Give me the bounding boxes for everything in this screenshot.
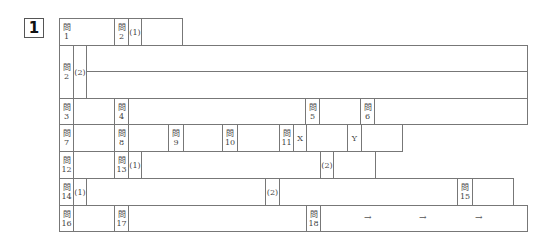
q15-label: 問15 [457,178,473,206]
q-number: 2 [119,32,124,41]
q-number: 16 [61,219,71,228]
q17-answer[interactable] [128,205,307,232]
q16-label: 問16 [59,205,74,232]
q11-x-label: X [293,124,307,152]
q14-1-answer[interactable] [86,178,266,206]
q-prefix: 問 [226,129,234,138]
q-number: 18 [308,219,318,228]
q-number: 8 [119,138,124,147]
q9-answer[interactable] [183,124,223,152]
q7-label: 問7 [59,124,74,152]
q-number: 12 [61,165,71,174]
q11-y-answer[interactable] [361,124,403,152]
q-number: 15 [460,192,470,201]
q-prefix: 問 [172,129,180,138]
q11-y-label: Y [347,124,362,152]
q-number: 6 [365,112,370,121]
q4-label: 問4 [114,98,129,125]
q2-2-answer-line2[interactable] [86,71,528,99]
q13-label: 問13 [114,151,129,179]
q1-answer[interactable] [73,18,115,46]
q8-label: 問8 [114,124,129,152]
q-number: 5 [310,112,315,121]
q-prefix: 問 [63,156,71,165]
q-number: 7 [64,138,69,147]
q-prefix: 問 [118,210,126,219]
q4-answer[interactable] [128,98,306,125]
q-number: 14 [61,192,71,201]
q-prefix: 問 [63,23,71,32]
arrow-icon: → [419,212,427,222]
q16-answer[interactable] [73,205,115,232]
q-prefix: 問 [63,129,71,138]
q12-answer[interactable] [73,151,115,179]
q11-x-answer[interactable] [306,124,348,152]
q-prefix: 問 [118,129,126,138]
q12-label: 問12 [59,151,74,179]
q10-label: 問10 [222,124,238,152]
q14-sub2-label: (2) [265,178,280,206]
q-number: 1 [64,32,69,41]
q2-sub1-label: (1) [128,18,142,46]
q-number: 13 [116,165,126,174]
q-prefix: 問 [283,129,291,138]
q14-2-answer[interactable] [279,178,458,206]
q-prefix: 問 [118,103,126,112]
q10-answer[interactable] [237,124,280,152]
q-prefix: 問 [63,103,71,112]
q3-label: 問3 [59,98,74,125]
q8-answer[interactable] [128,124,169,152]
q-number: 4 [119,112,124,121]
q9-label: 問9 [168,124,184,152]
q15-answer[interactable] [472,178,514,206]
q-prefix: 問 [310,210,318,219]
q-number: 9 [173,138,178,147]
q5-answer[interactable] [319,98,361,125]
q6-label: 問6 [360,98,375,125]
q13-2-answer[interactable] [333,151,376,179]
section-number: 1 [24,18,44,38]
q2-1-answer[interactable] [141,18,183,46]
q2-sub2-label: (2) [73,45,87,99]
q-prefix: 問 [364,103,372,112]
q11-label: 問11 [279,124,294,152]
q-prefix: 問 [118,156,126,165]
q17-label: 問17 [114,205,129,232]
q-prefix: 問 [63,210,71,219]
q13-1-answer[interactable] [141,151,321,179]
q2-label: 問2 [59,45,74,99]
q5-label: 問5 [305,98,320,125]
q6-answer[interactable] [374,98,528,125]
arrow-icon: → [364,212,372,222]
q3-answer[interactable] [73,98,115,125]
q-number: 11 [281,138,291,147]
q-number: 3 [64,112,69,121]
q-number: 17 [116,219,126,228]
arrow-icon: → [475,212,483,222]
q-prefix: 問 [63,183,71,192]
q13-sub1-label: (1) [128,151,142,179]
q14-label: 問14 [59,178,74,206]
q-number: 10 [225,138,235,147]
q18-label: 問18 [306,205,321,232]
q-prefix: 問 [63,63,71,72]
q2-label: 問2 [114,18,129,46]
q-number: 2 [64,72,69,81]
q2-2-answer-line1[interactable] [86,45,528,72]
q1-label: 問1 [59,18,74,46]
q13-sub2-label: (2) [320,151,334,179]
q7-answer[interactable] [73,124,115,152]
q14-sub1-label: (1) [73,178,87,206]
q-prefix: 問 [118,23,126,32]
q-prefix: 問 [461,183,469,192]
q-prefix: 問 [309,103,317,112]
